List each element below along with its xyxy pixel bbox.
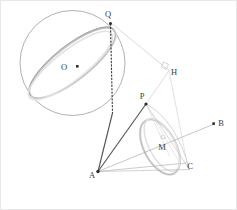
point-marker-p [144,102,147,105]
point-marker-q [109,22,112,25]
geometry-canvas: O Q H P B M A C G [0,0,237,210]
label-A: A [89,170,96,180]
point-marker-b [212,122,215,125]
point-marker-o [76,65,79,68]
figure-border [1,1,237,210]
label-P: P [140,91,145,101]
geometry-figure: O Q H P B M A C G [0,0,237,210]
label-M: M [158,142,166,152]
label-Q: Q [105,9,111,19]
label-O: O [61,62,67,72]
label-B: B [218,118,224,128]
label-H: H [171,67,177,77]
label-faint-G: G [160,133,165,141]
label-C: C [187,161,193,171]
point-marker-a [96,170,99,173]
